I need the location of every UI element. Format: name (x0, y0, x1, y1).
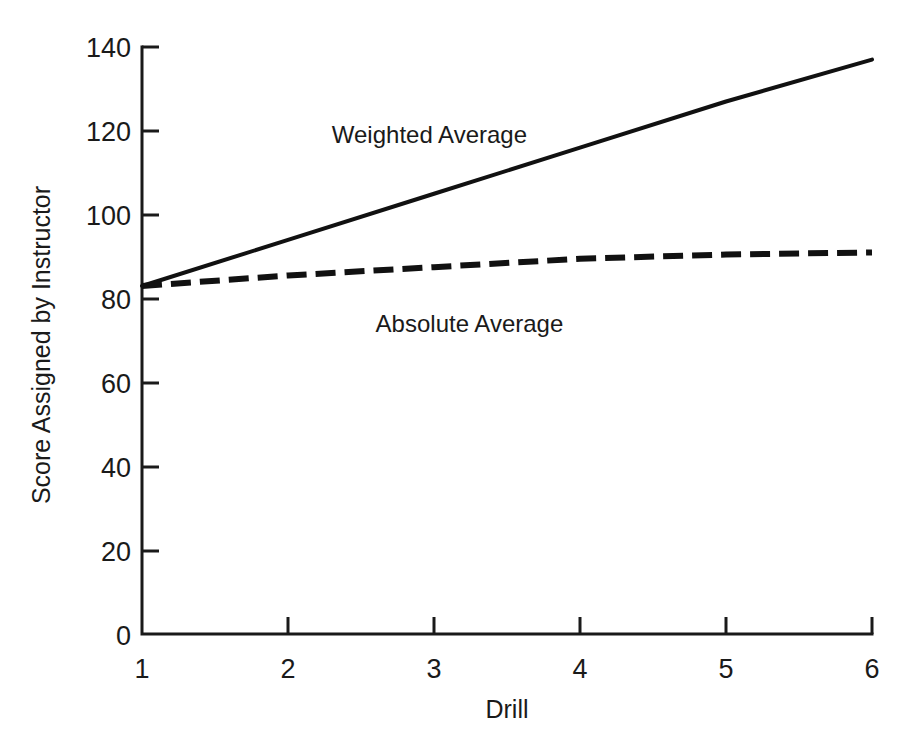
x-tick-label-1: 1 (134, 654, 149, 684)
x-axis-title: Drill (485, 695, 528, 723)
x-axis-ticks (288, 617, 872, 634)
x-tick-label-5: 5 (718, 654, 733, 684)
line-chart-canvas: 140 120 100 80 60 40 20 0 1 2 3 4 5 6 Dr… (0, 0, 904, 731)
y-tick-label-0: 0 (116, 621, 131, 651)
x-axis-tick-labels: 1 2 3 4 5 6 (134, 654, 879, 684)
x-tick-label-2: 2 (280, 654, 295, 684)
y-axis-ticks (142, 47, 159, 551)
y-axis-tick-labels: 140 120 100 80 60 40 20 0 (86, 33, 131, 651)
x-tick-label-6: 6 (864, 654, 879, 684)
series-line-absolute-average (142, 252, 872, 286)
y-tick-label-20: 20 (101, 537, 131, 567)
series-label-weighted-average: Weighted Average (332, 121, 527, 148)
y-tick-label-80: 80 (101, 285, 131, 315)
y-tick-label-100: 100 (86, 201, 131, 231)
y-tick-label-140: 140 (86, 33, 131, 63)
x-tick-label-4: 4 (572, 654, 587, 684)
chart-figure: 140 120 100 80 60 40 20 0 1 2 3 4 5 6 Dr… (0, 0, 904, 731)
series-label-absolute-average: Absolute Average (376, 310, 564, 337)
y-axis-title: Score Assigned by Instructor (27, 186, 55, 504)
y-tick-label-120: 120 (86, 117, 131, 147)
x-tick-label-3: 3 (426, 654, 441, 684)
y-tick-label-40: 40 (101, 453, 131, 483)
y-tick-label-60: 60 (101, 369, 131, 399)
